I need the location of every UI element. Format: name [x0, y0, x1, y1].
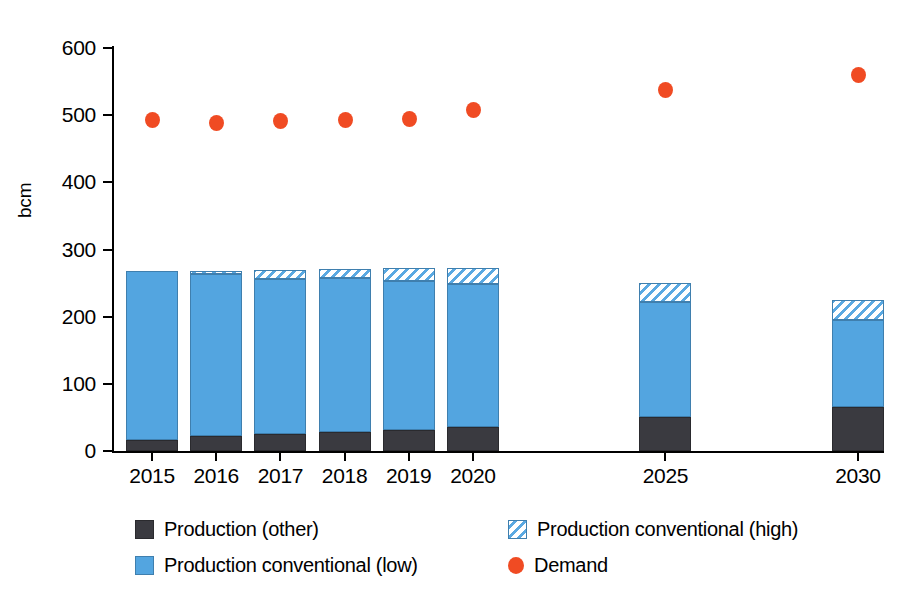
bar-segment-production-other: [126, 440, 178, 451]
chart-legend: Production (other) Production convention…: [135, 515, 875, 585]
legend-item-production-conventional-low[interactable]: Production conventional (low): [135, 555, 418, 575]
y-axis-tick: [103, 450, 113, 452]
bar-segment-production-conventional-high: [254, 270, 306, 279]
bar-segment-production-conventional-low: [319, 278, 371, 432]
legend-swatch-production-conventional-low-icon: [135, 556, 154, 575]
bar-segment-production-conventional-high: [319, 269, 371, 278]
x-axis-tick: [215, 451, 217, 461]
bar-segment-production-conventional-high: [190, 271, 242, 274]
bar-segment-production-other: [832, 407, 884, 451]
demand-data-point[interactable]: [402, 111, 417, 127]
legend-label-demand: Demand: [534, 555, 608, 575]
bar-segment-production-other: [254, 434, 306, 451]
demand-data-point[interactable]: [338, 112, 353, 128]
legend-item-demand[interactable]: Demand: [508, 555, 608, 575]
y-axis-tick: [103, 249, 113, 251]
y-axis-tick-label: 300: [36, 239, 96, 260]
x-axis-tick-label: 2020: [433, 464, 513, 488]
y-axis-tick-label: 100: [36, 373, 96, 394]
y-axis-tick: [103, 181, 113, 183]
demand-data-point[interactable]: [209, 115, 224, 131]
legend-label-production-conventional-low: Production conventional (low): [164, 555, 418, 575]
y-axis-tick-label: 200: [36, 306, 96, 327]
bar-segment-production-conventional-low: [126, 271, 178, 440]
bar-group[interactable]: [190, 0, 242, 451]
bar-segment-production-conventional-low: [190, 274, 242, 436]
bar-segment-production-other: [319, 432, 371, 451]
bar-group[interactable]: [319, 0, 371, 451]
demand-data-point[interactable]: [466, 102, 481, 118]
legend-item-production-other[interactable]: Production (other): [135, 519, 319, 539]
x-axis-tick: [344, 451, 346, 461]
bar-segment-production-conventional-low: [639, 302, 691, 418]
bar-segment-production-other: [447, 427, 499, 451]
legend-swatch-production-other-icon: [135, 520, 154, 539]
x-axis-tick: [279, 451, 281, 461]
bar-segment-production-conventional-low: [447, 284, 499, 427]
bar-segment-production-conventional-low: [832, 320, 884, 407]
y-axis-tick-label: 0: [36, 440, 96, 461]
bar-group[interactable]: [639, 0, 691, 451]
bar-segment-production-other: [190, 436, 242, 451]
x-axis-tick: [472, 451, 474, 461]
legend-label-production-other: Production (other): [164, 519, 319, 539]
x-axis-tick: [151, 451, 153, 461]
y-axis-tick: [103, 383, 113, 385]
x-axis-tick-label: 2025: [625, 464, 705, 488]
bar-group[interactable]: [447, 0, 499, 451]
x-axis-tick: [857, 451, 859, 461]
bar-segment-production-conventional-high: [447, 268, 499, 285]
y-axis-tick-label: 600: [36, 37, 96, 58]
y-axis-tick: [103, 114, 113, 116]
bar-group[interactable]: [254, 0, 306, 451]
bar-segment-production-other: [639, 417, 691, 451]
bar-group[interactable]: [383, 0, 435, 451]
demand-data-point[interactable]: [145, 112, 160, 128]
demand-data-point[interactable]: [851, 67, 866, 83]
bar-segment-production-other: [383, 430, 435, 451]
bar-segment-production-conventional-high: [639, 283, 691, 302]
legend-swatch-production-conventional-high-icon: [508, 520, 527, 539]
x-axis-tick: [664, 451, 666, 461]
bar-segment-production-conventional-low: [254, 279, 306, 434]
chart-root: bcm 0100200300400500600 2015201620172018…: [0, 0, 902, 598]
y-axis-title: bcm: [14, 183, 36, 218]
bar-segment-production-conventional-low: [383, 281, 435, 430]
y-axis-tick-label: 500: [36, 104, 96, 125]
y-axis-tick-label: 400: [36, 171, 96, 192]
x-axis-line: [112, 451, 884, 453]
x-axis-tick: [408, 451, 410, 461]
legend-label-production-conventional-high: Production conventional (high): [537, 519, 798, 539]
bar-segment-production-conventional-high: [832, 300, 884, 320]
legend-swatch-demand-icon: [508, 557, 524, 574]
bar-segment-production-conventional-high: [383, 268, 435, 281]
bar-group[interactable]: [126, 0, 178, 451]
y-axis-tick: [103, 316, 113, 318]
y-axis-tick: [103, 47, 113, 49]
legend-item-production-conventional-high[interactable]: Production conventional (high): [508, 519, 798, 539]
x-axis-tick-label: 2030: [818, 464, 898, 488]
